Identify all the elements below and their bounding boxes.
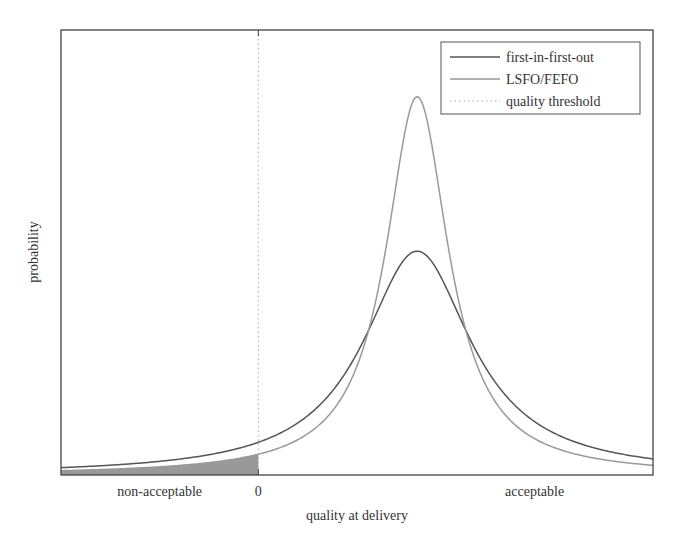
shaded-region-non-acceptable: [61, 454, 258, 475]
x-axis-label: quality at delivery: [306, 508, 408, 523]
series-line-lsfo-fefo: [61, 97, 653, 471]
region-label-acceptable: acceptable: [505, 484, 564, 499]
x-tick-label-zero: 0: [255, 484, 262, 499]
region-label-non-acceptable: non-acceptable: [117, 484, 202, 499]
legend-label-threshold: quality threshold: [506, 94, 601, 109]
legend-label-fifo: first-in-first-out: [506, 50, 594, 65]
legend-label-lsfo: LSFO/FEFO: [506, 72, 578, 87]
chart: first-in-first-out LSFO/FEFO quality thr…: [0, 0, 688, 545]
y-axis-label: probability: [26, 221, 41, 282]
legend: first-in-first-out LSFO/FEFO quality thr…: [441, 42, 640, 114]
series-line-fifo: [61, 251, 653, 467]
